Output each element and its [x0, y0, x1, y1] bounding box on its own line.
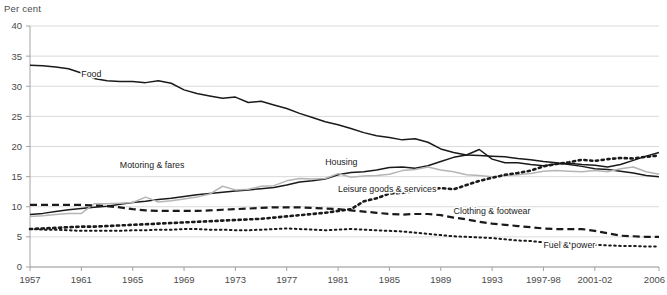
x-axis-tick-label: 1981	[328, 274, 349, 285]
series-label: Fuel & power	[543, 240, 595, 250]
y-axis-tick-label: 25	[11, 111, 22, 122]
x-axis-tick-label: 1989	[430, 274, 451, 285]
y-axis-tick-label: 35	[11, 51, 22, 62]
x-axis-tick-label: 1993	[482, 274, 503, 285]
y-axis-tick-label: 10	[11, 201, 22, 212]
y-axis-tick-label: 5	[17, 231, 22, 242]
y-axis-tick-label: 0	[17, 261, 22, 272]
x-axis-tick-label: 1973	[225, 274, 246, 285]
series-label: Food	[81, 69, 101, 79]
series-label: Leisure goods & services	[338, 184, 437, 194]
x-axis-tick-label: 1965	[122, 274, 143, 285]
expenditure-line-chart: Per cent 0510152025303540195719611965196…	[0, 0, 667, 295]
series-label: Motoring & fares	[120, 160, 185, 170]
axis-unit-label: Per cent	[4, 3, 41, 14]
y-axis-tick-label: 30	[11, 81, 22, 92]
x-axis-tick-label: 1969	[173, 274, 194, 285]
x-axis-tick-label: 1957	[19, 274, 40, 285]
x-axis-tick-label: 2001-02	[577, 274, 612, 285]
y-axis-tick-label: 20	[11, 141, 22, 152]
x-axis-tick-label: 1997-98	[526, 274, 561, 285]
x-axis-tick-label: 1985	[379, 274, 400, 285]
series-line	[30, 205, 659, 237]
chart-svg: 0510152025303540195719611965196919731977…	[0, 0, 667, 295]
x-axis-tick-label: 2006	[644, 274, 665, 285]
x-axis-tick-label: 1961	[71, 274, 92, 285]
series-label: Clothing & footwear	[454, 206, 531, 216]
x-axis-tick-label: 1977	[276, 274, 297, 285]
y-axis-tick-label: 15	[11, 171, 22, 182]
y-axis-tick-label: 40	[11, 20, 22, 31]
series-label: Housing	[325, 157, 357, 167]
